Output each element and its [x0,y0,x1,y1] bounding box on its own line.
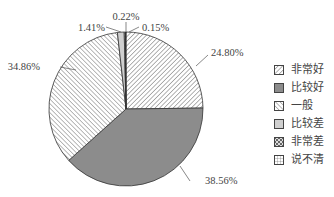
leader-line [196,55,208,66]
leader-line [180,166,190,181]
legend-label: 非常差 [291,136,324,148]
legend-label: 比较差 [291,118,324,130]
legend-label: 一般 [291,100,313,112]
pie-slice [126,32,203,109]
leader-line [106,27,121,32]
legend-item-unclear: 说不清 [274,151,324,169]
checker-swatch-icon [274,137,284,147]
grid-swatch-icon [274,155,284,165]
slice-percent-label: 34.86% [8,61,41,72]
slice-percent-label: 0.22% [112,11,139,22]
legend-item-good: 比较好 [274,79,324,97]
slice-percent-label: 1.41% [78,22,105,33]
legend-item-very-poor: 非常差 [274,133,324,151]
legend-label: 非常好 [291,64,324,76]
legend-item-very-good: 非常好 [274,61,324,79]
pie-slices [49,32,203,186]
legend: 非常好 比较好 一般 比较差 非常差 说不清 [274,61,324,169]
slice-percent-label: 38.56% [205,175,238,186]
legend-item-poor: 比较差 [274,115,324,133]
legend-label: 比较好 [291,82,324,94]
leader-line [129,27,139,32]
legend-label: 说不清 [291,154,324,166]
slice-percent-label: 0.15% [142,22,169,33]
hatch-back-swatch-icon [274,65,284,75]
legend-item-average: 一般 [274,97,324,115]
light-gray-swatch-icon [274,119,284,129]
gray-swatch-icon [274,83,284,93]
hatch-fwd-swatch-icon [274,101,284,111]
slice-percent-label: 24.80% [211,47,244,58]
